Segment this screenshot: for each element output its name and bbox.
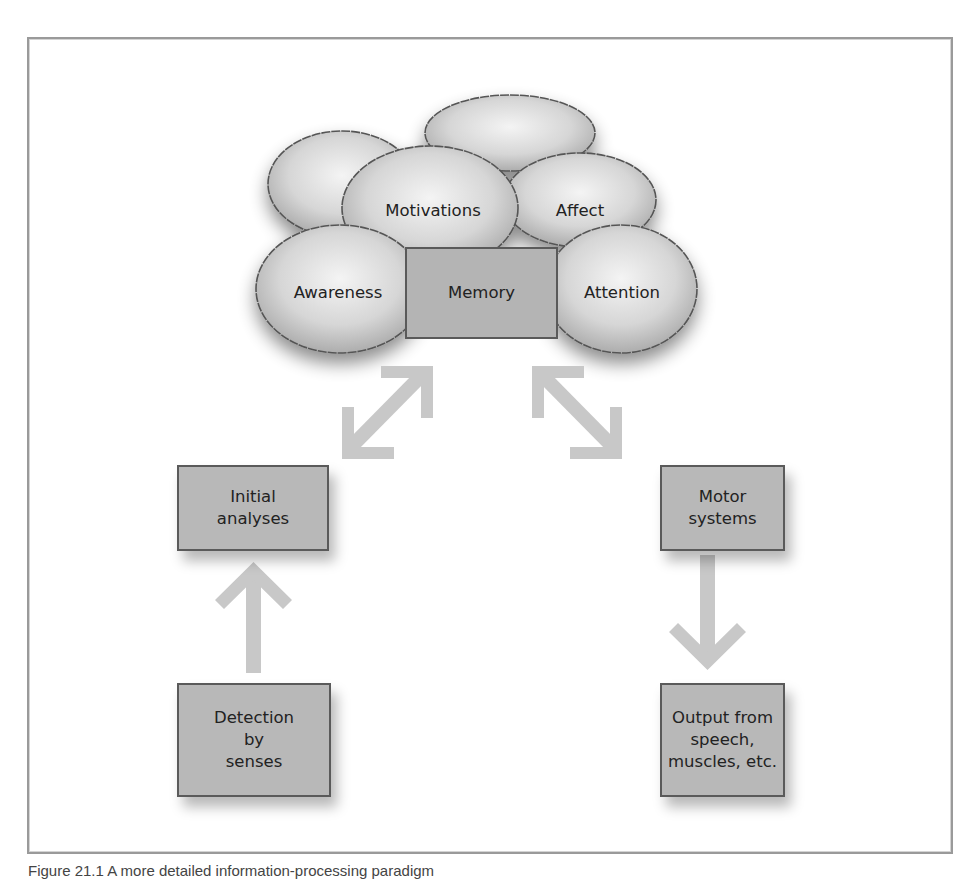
- arrow-initial-memory: [342, 366, 433, 459]
- motor-systems-label: Motor systems: [688, 486, 756, 530]
- arrow-down-motor-output: [669, 555, 746, 670]
- motor-systems-box: Motor systems: [660, 465, 785, 551]
- figure-caption: Figure 21.1 A more detailed information-…: [28, 862, 434, 879]
- output-label: Output from speech, muscles, etc.: [668, 707, 777, 773]
- cloud-label-awareness: Awareness: [278, 282, 398, 303]
- initial-analyses-box: Initial analyses: [177, 465, 329, 551]
- initial-analyses-label: Initial analyses: [217, 486, 289, 530]
- cloud-label-attention: Attention: [562, 282, 682, 303]
- arrow-memory-motor: [532, 366, 622, 459]
- cloud-label-motivations: Motivations: [353, 200, 513, 221]
- detection-label: Detection by senses: [214, 707, 294, 773]
- memory-box: Memory: [405, 247, 558, 339]
- memory-label: Memory: [448, 282, 515, 304]
- cloud-label-affect: Affect: [535, 200, 625, 221]
- arrow-up-detection-initial: [215, 562, 292, 673]
- output-box: Output from speech, muscles, etc.: [660, 683, 785, 797]
- detection-box: Detection by senses: [177, 683, 331, 797]
